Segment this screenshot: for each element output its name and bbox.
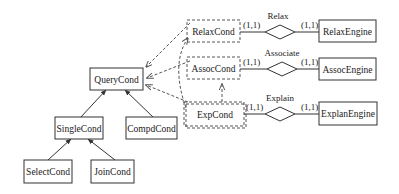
cardinality-relax-right: (1,1) <box>301 20 318 30</box>
entity-explanengine-label: ExplanEngine <box>321 109 375 119</box>
entity-selectcond[interactable]: SelectCond <box>24 160 72 183</box>
diagram-canvas: QueryCond SingleCond CompdCond SelectCon… <box>0 0 399 194</box>
entity-assocengine-label: AssocEngine <box>322 65 372 75</box>
cardinality-relax-left: (1,1) <box>243 20 260 30</box>
entity-querycond[interactable]: QueryCond <box>90 68 143 90</box>
entity-relaxcond-label: RelaxCond <box>192 27 235 37</box>
entity-selectcond-label: SelectCond <box>26 167 70 177</box>
entity-assoccond-label: AssocCond <box>192 64 236 74</box>
entity-singlecond[interactable]: SingleCond <box>55 117 103 139</box>
entity-assocengine[interactable]: AssocEngine <box>319 58 376 80</box>
cardinality-explain-left: (1,1) <box>246 102 263 112</box>
entity-singlecond-label: SingleCond <box>57 124 102 134</box>
entity-joincond-label: JoinCond <box>94 167 131 177</box>
cardinality-associate-right: (1,1) <box>301 57 318 67</box>
entity-relaxengine-label: RelaxEngine <box>323 27 372 37</box>
edge-selectcond-singlecond <box>48 139 71 160</box>
relationship-relax[interactable] <box>265 25 295 39</box>
relationship-associate[interactable] <box>267 62 297 76</box>
entity-assoccond[interactable]: AssocCond <box>187 57 240 79</box>
entity-expcond-label: ExpCond <box>197 110 233 120</box>
cardinality-associate-left: (1,1) <box>243 57 260 67</box>
entity-explanengine[interactable]: ExplanEngine <box>319 102 377 125</box>
edge-singlecond-querycond <box>80 90 106 118</box>
relationship-relax-label: Relax <box>268 11 289 21</box>
entity-compdcond[interactable]: CompdCond <box>126 117 177 139</box>
entity-joincond[interactable]: JoinCond <box>91 160 134 183</box>
edge-expcond-relaxcond <box>179 38 188 108</box>
cardinality-explain-right: (1,1) <box>301 102 318 112</box>
relationship-explain[interactable] <box>265 107 295 121</box>
edge-assoccond-querycond <box>147 61 190 78</box>
entity-relaxcond[interactable]: RelaxCond <box>187 20 240 42</box>
entity-compdcond-label: CompdCond <box>127 124 176 134</box>
entity-relaxengine[interactable]: RelaxEngine <box>319 20 376 42</box>
edge-compdcond-querycond <box>125 90 154 118</box>
relationship-explain-label: Explain <box>266 93 294 103</box>
entity-expcond[interactable]: ExpCond <box>184 102 246 128</box>
edge-relaxcond-querycond <box>146 23 190 67</box>
relationship-associate-label: Associate <box>265 48 300 58</box>
edge-joincond-singlecond <box>88 139 115 160</box>
entity-querycond-label: QueryCond <box>94 75 139 85</box>
